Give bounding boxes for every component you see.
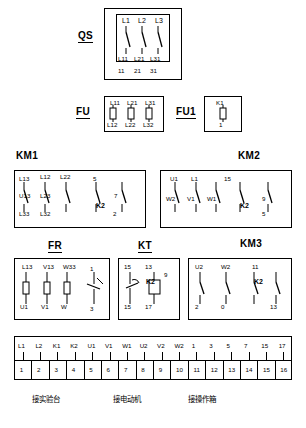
caption-center: 接电动机 — [113, 396, 141, 404]
label-fu1: FU1 — [176, 106, 196, 119]
terminal-stub — [57, 352, 58, 360]
terminal-stub — [75, 352, 76, 360]
label-km1: KM1 — [16, 150, 38, 161]
wiring-diagram-sheet: L1 L2 L3 L11 L21 L31 11 21 31 QS L11 L21… — [0, 0, 306, 428]
km1-coil-k2: K2 — [96, 202, 105, 209]
terminal-label: U2 — [140, 343, 148, 349]
terminal-divider — [170, 360, 171, 380]
terminal-label: L2 — [35, 343, 42, 349]
fu-bottom-l22: L22 — [125, 122, 135, 128]
terminal-label: W1 — [122, 343, 131, 349]
terminal-divider — [188, 360, 189, 380]
terminal-stub — [283, 352, 284, 360]
terminal-label: 7 — [244, 343, 247, 349]
terminal-number: 12 — [211, 367, 218, 373]
terminal-stub — [162, 352, 163, 360]
terminal-stub — [179, 352, 180, 360]
terminal-number: 2 — [37, 367, 40, 373]
terminal-number: 7 — [124, 367, 127, 373]
fu1-bottom-1: 1 — [219, 122, 222, 128]
terminal-number: 13 — [228, 367, 235, 373]
terminal-stub — [110, 352, 111, 360]
terminal-number: 15 — [263, 367, 270, 373]
terminal-number: 10 — [176, 367, 183, 373]
km2-coil-num: 5 — [262, 211, 265, 217]
label-qs: QS — [78, 30, 93, 43]
terminal-number: 4 — [72, 367, 75, 373]
terminal-divider — [223, 360, 224, 380]
terminal-stub — [23, 352, 24, 360]
terminal-divider — [136, 360, 137, 380]
km2-contact-symbols — [160, 170, 292, 228]
terminal-divider — [101, 360, 102, 380]
terminal-number: 5 — [89, 367, 92, 373]
terminal-number: 3 — [54, 367, 57, 373]
km2-coil-k2: K2 — [240, 202, 249, 209]
terminal-divider — [257, 360, 258, 380]
terminal-label: 1 — [192, 343, 195, 349]
qs-bottom-11: 11 — [118, 68, 124, 74]
terminal-divider — [275, 360, 276, 380]
label-km2: KM2 — [238, 150, 260, 161]
qs-bottom-31: 31 — [150, 68, 157, 74]
terminal-label: W2 — [174, 343, 183, 349]
terminal-stub — [127, 352, 128, 360]
kt-timer-symbols — [118, 258, 180, 320]
terminal-stub — [40, 352, 41, 360]
terminal-label: K2 — [70, 343, 78, 349]
qs-switch-symbols — [104, 8, 182, 80]
terminal-divider — [153, 360, 154, 380]
terminal-stub — [92, 352, 93, 360]
terminal-number: 16 — [280, 367, 287, 373]
qs-inner-l31: L31 — [150, 56, 160, 62]
terminal-label: L1 — [18, 343, 25, 349]
terminal-label: U1 — [88, 343, 96, 349]
kt-coil-num: 9 — [164, 272, 167, 278]
terminal-divider — [84, 360, 85, 380]
terminal-label: 3 — [209, 343, 212, 349]
terminal-divider — [49, 360, 50, 380]
caption-left: 接实验台 — [32, 396, 60, 404]
terminal-label: V2 — [157, 343, 165, 349]
terminal-number: 6 — [107, 367, 110, 373]
km3-coil-k2: K2 — [254, 278, 263, 285]
km3-contact-symbols — [188, 258, 292, 320]
fr-overload-symbols — [14, 258, 110, 320]
terminal-divider — [66, 360, 67, 380]
label-km3: KM3 — [240, 238, 262, 249]
km1-contact-symbols — [14, 170, 146, 228]
fu-bottom-l32: L32 — [143, 122, 153, 128]
terminal-label: 5 — [227, 343, 230, 349]
terminal-stub — [266, 352, 267, 360]
terminal-divider — [31, 360, 32, 380]
terminal-stub — [214, 352, 215, 360]
terminal-divider — [240, 360, 241, 380]
label-fr: FR — [48, 240, 62, 253]
terminal-stub — [196, 352, 197, 360]
terminal-stub — [144, 352, 145, 360]
fu-bottom-l12: L12 — [107, 122, 117, 128]
terminal-label: 15 — [261, 343, 268, 349]
terminal-divider — [205, 360, 206, 380]
terminal-divider — [118, 360, 119, 380]
terminal-number: 11 — [193, 367, 199, 373]
terminal-number: 8 — [141, 367, 144, 373]
terminal-number: 1 — [20, 367, 23, 373]
qs-bottom-21: 21 — [134, 68, 141, 74]
qs-inner-l21: L21 — [134, 56, 144, 62]
terminal-stub — [249, 352, 250, 360]
fu1-fuse-symbol — [204, 96, 242, 132]
terminal-number: 14 — [246, 367, 253, 373]
terminal-label: K1 — [53, 343, 61, 349]
km1-coil-num: 2 — [113, 211, 116, 217]
caption-right: 接操作箱 — [188, 396, 216, 404]
label-kt: KT — [138, 240, 152, 253]
terminal-number: 9 — [159, 367, 162, 373]
terminal-label: 17 — [279, 343, 286, 349]
terminal-label: V1 — [105, 343, 113, 349]
terminal-stub — [231, 352, 232, 360]
qs-inner-l11: L11 — [118, 56, 128, 62]
kt-coil-k2: K2 — [146, 278, 155, 285]
label-fu: FU — [76, 106, 90, 119]
